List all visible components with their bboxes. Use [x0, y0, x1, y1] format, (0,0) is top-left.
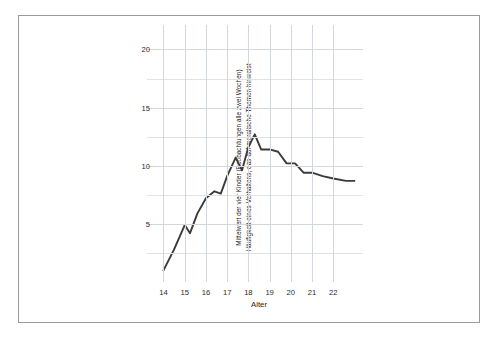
x-axis-tick-label: 22	[329, 288, 337, 297]
gridline-vertical	[291, 25, 292, 282]
y-axis-tick-label: 15	[142, 103, 150, 112]
y-axis-tick-label: 20	[142, 45, 150, 54]
x-axis-tick-label: 16	[202, 288, 210, 297]
gridline-horizontal	[147, 195, 363, 196]
x-axis-title: Alter	[155, 300, 363, 309]
gridline-vertical	[163, 25, 164, 282]
line-series	[155, 32, 363, 282]
x-axis-tick-label: 15	[180, 288, 188, 297]
gridline-vertical	[312, 25, 313, 282]
x-axis-tick-label: 19	[265, 288, 273, 297]
gridline-vertical	[333, 25, 334, 282]
series-line	[163, 134, 354, 270]
x-axis-tick-label: 21	[308, 288, 316, 297]
x-axis-tick-label: 17	[223, 288, 231, 297]
gridline-horizontal	[147, 166, 363, 167]
gridline-horizontal	[147, 224, 363, 225]
y-axis-tick-label: 5	[146, 219, 150, 228]
gridline-vertical	[227, 25, 228, 282]
gridline-vertical	[185, 25, 186, 282]
plot-area: 5101520141516171819202122	[155, 32, 363, 282]
gridline-horizontal	[147, 137, 363, 138]
gridline-horizontal	[147, 253, 363, 254]
gridline-vertical	[270, 25, 271, 282]
x-axis-tick-label: 18	[244, 288, 252, 297]
gridline-horizontal	[147, 108, 363, 109]
gridline-vertical	[206, 25, 207, 282]
x-axis-tick-label: 14	[159, 288, 167, 297]
chart-container: Mittelwert der vier Kinder (Beobachtunge…	[0, 0, 496, 339]
gridline-horizontal	[147, 49, 363, 50]
y-axis-title: Mittelwert der vier Kinder (Beobachtunge…	[98, 25, 128, 290]
gridline-horizontal	[147, 79, 363, 80]
x-axis-tick-label: 20	[287, 288, 295, 297]
y-axis-tick-label: 10	[142, 161, 150, 170]
gridline-vertical	[248, 25, 249, 282]
